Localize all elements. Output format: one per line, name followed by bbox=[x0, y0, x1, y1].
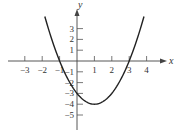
y-tick-label: −5 bbox=[64, 110, 74, 120]
x-tick-label: −3 bbox=[20, 65, 30, 75]
y-tick-label: 3 bbox=[70, 24, 75, 34]
y-tick-label: −4 bbox=[64, 99, 74, 109]
parabola-chart: −3−2−11234−5−4−3−2−1123 x y bbox=[0, 0, 187, 133]
x-tick-label: 4 bbox=[144, 65, 149, 75]
y-tick-label: 2 bbox=[70, 34, 75, 44]
tick-labels: −3−2−11234−5−4−3−2−1123 bbox=[20, 24, 149, 120]
y-tick-label: −3 bbox=[64, 88, 74, 98]
y-axis-label: y bbox=[77, 0, 83, 10]
x-tick-label: −2 bbox=[37, 65, 47, 75]
y-axis-arrow-icon bbox=[75, 9, 80, 16]
x-tick-label: 3 bbox=[127, 65, 132, 75]
x-axis-arrow-icon bbox=[160, 59, 167, 64]
axes bbox=[8, 9, 167, 130]
x-tick-label: 2 bbox=[110, 65, 115, 75]
x-axis-label: x bbox=[168, 55, 174, 66]
x-tick-label: 1 bbox=[92, 65, 97, 75]
y-tick-label: 1 bbox=[70, 45, 75, 55]
